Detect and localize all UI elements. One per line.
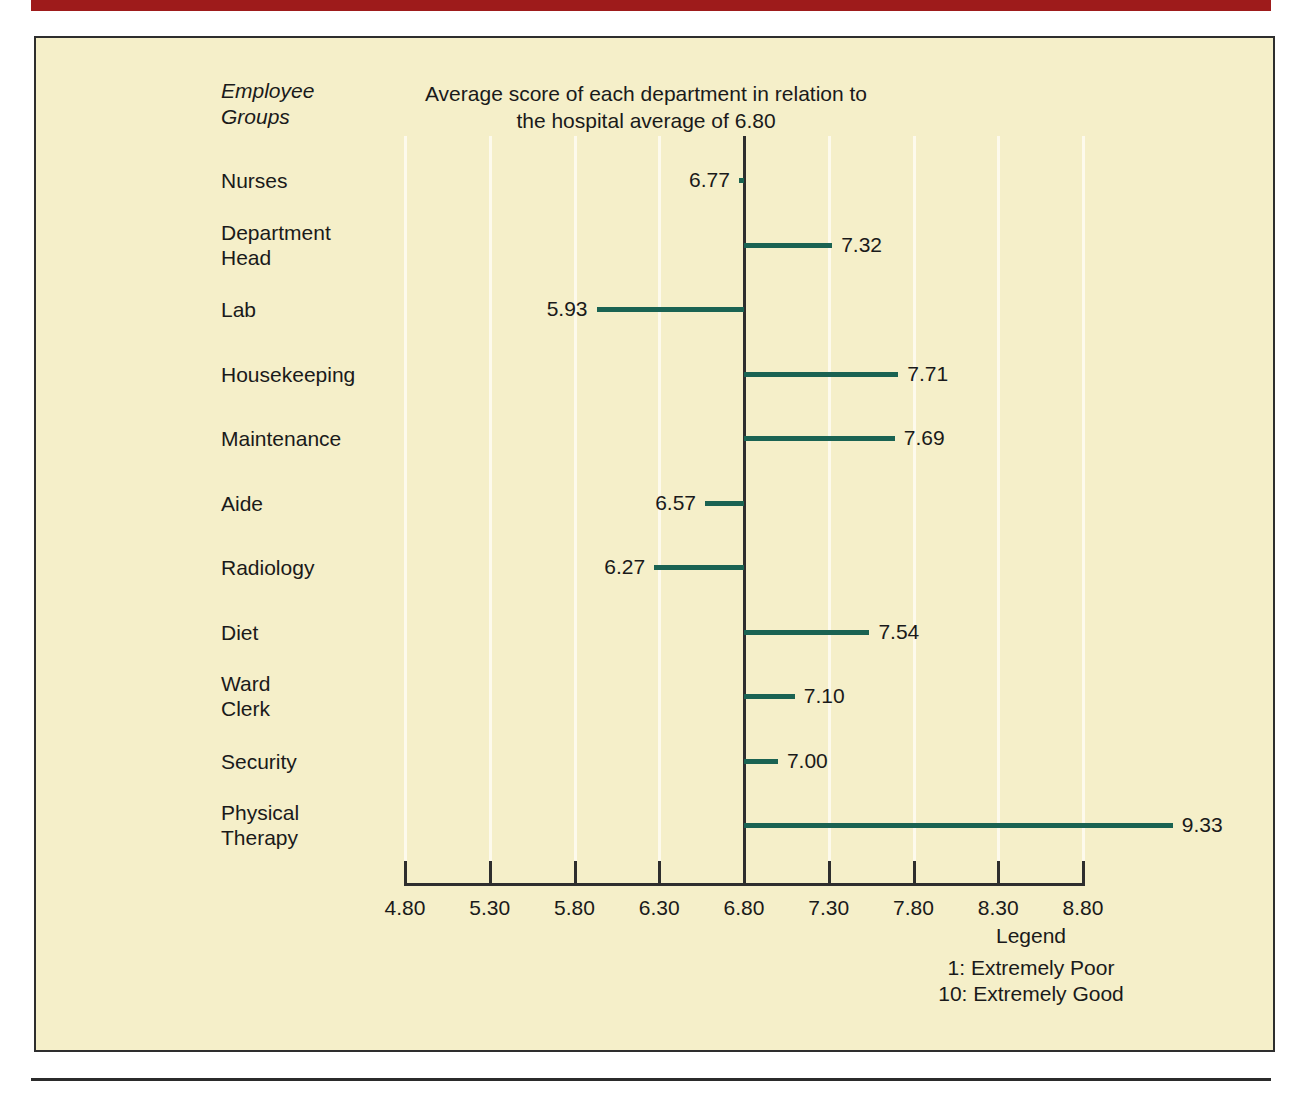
bar-value-label: 5.93: [547, 297, 588, 321]
legend: Legend 1: Extremely Poor 10: Extremely G…: [866, 923, 1196, 1007]
axis-tick: [404, 861, 407, 886]
chart-title: Average score of each department in rela…: [366, 80, 926, 134]
bar-value-label: 6.57: [655, 491, 696, 515]
chart-figure: Employee Groups Average score of each de…: [34, 36, 1275, 1052]
bar: [744, 243, 832, 248]
y-axis-title: Employee Groups: [221, 78, 314, 130]
bar: [744, 759, 778, 764]
gridline: [574, 136, 577, 876]
axis-tick: [658, 861, 661, 886]
axis-tick-label: 7.80: [893, 896, 934, 920]
bar-value-label: 7.32: [841, 233, 882, 257]
bar: [739, 178, 744, 183]
bar: [744, 436, 895, 441]
axis-tick-label: 4.80: [385, 896, 426, 920]
bar: [705, 501, 744, 506]
bottom-rule: [31, 1078, 1271, 1081]
category-label: Physical Therapy: [221, 800, 299, 850]
category-label: Security: [221, 748, 297, 773]
category-label: Nurses: [221, 168, 288, 193]
axis-tick: [1082, 861, 1085, 886]
category-label: Ward Clerk: [221, 671, 270, 721]
axis-tick-label: 5.30: [469, 896, 510, 920]
axis-tick-label: 8.80: [1063, 896, 1104, 920]
category-label: Radiology: [221, 555, 314, 580]
bar-value-label: 7.54: [878, 620, 919, 644]
bar: [744, 630, 869, 635]
axis-tick: [997, 861, 1000, 886]
bar: [654, 565, 744, 570]
axis-tick: [489, 861, 492, 886]
category-label: Department Head: [221, 220, 331, 270]
axis-tick-label: 6.30: [639, 896, 680, 920]
axis-tick-label: 6.80: [724, 896, 765, 920]
bar-value-label: 7.10: [804, 684, 845, 708]
bar: [597, 307, 744, 312]
bar-value-label: 7.69: [904, 426, 945, 450]
gridline: [404, 136, 407, 876]
axis-tick: [743, 848, 746, 886]
bar-value-label: 7.00: [787, 749, 828, 773]
category-label: Housekeeping: [221, 361, 355, 386]
axis-tick: [913, 861, 916, 886]
axis-tick-label: 8.30: [978, 896, 1019, 920]
axis-tick-label: 5.80: [554, 896, 595, 920]
legend-line-low: 1: Extremely Poor: [866, 955, 1196, 981]
axis-tick: [574, 861, 577, 886]
category-label: Lab: [221, 297, 256, 322]
top-red-rule: [31, 0, 1271, 11]
bar: [744, 823, 1173, 828]
category-label: Aide: [221, 490, 263, 515]
gridline: [1082, 136, 1085, 876]
bar: [744, 694, 795, 699]
category-label: Diet: [221, 619, 258, 644]
bar-value-label: 6.77: [689, 168, 730, 192]
legend-line-high: 10: Extremely Good: [866, 981, 1196, 1007]
category-label: Maintenance: [221, 426, 341, 451]
gridline: [913, 136, 916, 876]
bar-value-label: 7.71: [907, 362, 948, 386]
bar-value-label: 6.27: [604, 555, 645, 579]
axis-tick: [828, 861, 831, 886]
gridline: [997, 136, 1000, 876]
bar: [744, 372, 898, 377]
gridline: [489, 136, 492, 876]
legend-title: Legend: [866, 923, 1196, 949]
axis-tick-label: 7.30: [808, 896, 849, 920]
plot-area: Employee Groups Average score of each de…: [36, 38, 1273, 1050]
bar-value-label: 9.33: [1182, 813, 1223, 837]
